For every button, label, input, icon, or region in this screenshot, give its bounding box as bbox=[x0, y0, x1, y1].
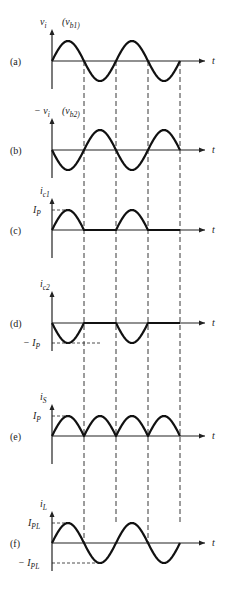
time-axis-label: t bbox=[212, 144, 215, 155]
y-axis-arrow-icon bbox=[50, 404, 55, 410]
panel-a: t(a)vi(vb1) bbox=[10, 16, 215, 89]
y-axis-label-extra: (vb1) bbox=[62, 16, 80, 30]
time-axis-label: t bbox=[212, 224, 215, 235]
level-label: − IPL bbox=[18, 557, 39, 571]
panel-label: (e) bbox=[10, 431, 21, 443]
y-axis-arrow-icon bbox=[50, 198, 55, 204]
y-axis-arrow-icon bbox=[50, 29, 55, 35]
time-axis-arrow-icon bbox=[199, 148, 205, 153]
y-axis-label: iL bbox=[40, 498, 47, 512]
push-pull-waveform-diagram: t(a)vi(vb1)t(b)− vi(vb2)t(c)ic1IPt(d)ic2… bbox=[0, 0, 231, 593]
time-axis-arrow-icon bbox=[199, 59, 205, 64]
y-axis-label: ic2 bbox=[40, 278, 50, 292]
y-axis-label: ic1 bbox=[40, 185, 50, 199]
panel-label: (d) bbox=[10, 318, 22, 330]
time-axis-arrow-icon bbox=[199, 228, 205, 233]
panel-label: (b) bbox=[10, 145, 22, 157]
panel-c: t(c)ic1IP bbox=[10, 185, 215, 258]
y-axis-label: − vi bbox=[34, 105, 50, 119]
time-axis-arrow-icon bbox=[199, 434, 205, 439]
time-axis-label: t bbox=[212, 430, 215, 441]
y-axis-arrow-icon bbox=[50, 118, 55, 124]
time-axis-label: t bbox=[212, 537, 215, 548]
level-label: IP bbox=[32, 204, 41, 218]
level-label: IP bbox=[32, 410, 41, 424]
panel-label: (a) bbox=[10, 56, 21, 68]
waveform-panels: t(a)vi(vb1)t(b)− vi(vb2)t(c)ic1IPt(d)ic2… bbox=[10, 16, 215, 571]
panel-label: (f) bbox=[10, 538, 20, 550]
level-label: − IP bbox=[23, 337, 41, 351]
time-axis-arrow-icon bbox=[199, 321, 205, 326]
panel-label: (c) bbox=[10, 225, 21, 237]
y-axis-label-extra: (vb2) bbox=[62, 105, 80, 119]
time-axis-label: t bbox=[212, 317, 215, 328]
time-axis-arrow-icon bbox=[199, 541, 205, 546]
dashed-crossing-lines bbox=[84, 61, 180, 543]
y-axis-label: iS bbox=[40, 391, 47, 405]
time-axis-label: t bbox=[212, 55, 215, 66]
panel-e: t(e)iSIP bbox=[10, 391, 215, 464]
y-axis-arrow-icon bbox=[50, 291, 55, 297]
panel-d: t(d)ic2− IP bbox=[10, 278, 215, 351]
y-axis-label: vi bbox=[40, 16, 47, 30]
y-axis-arrow-icon bbox=[50, 511, 55, 517]
panel-f: t(f)iLIPL− IPL bbox=[10, 498, 215, 571]
panel-b: t(b)− vi(vb2) bbox=[10, 105, 215, 178]
level-label: IPL bbox=[27, 517, 40, 531]
